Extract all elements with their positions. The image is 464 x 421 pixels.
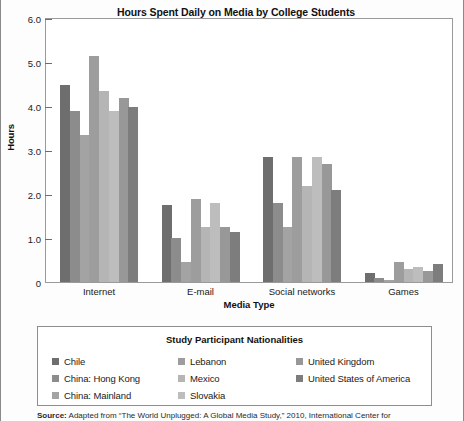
bar	[220, 227, 230, 282]
chart-title: Hours Spent Daily on Media by College St…	[61, 6, 411, 18]
x-axis-tick-label: Internet	[83, 286, 115, 297]
chart-figure: Hours Spent Daily on Media by College St…	[0, 0, 464, 421]
legend-item-label: Lebanon	[190, 356, 226, 367]
x-axis-title: Media Type	[46, 299, 452, 310]
source-text: Adapted from “The World Unplugged: A Glo…	[67, 411, 391, 420]
legend-items: ChileChina: Hong KongChina: MainlandLeba…	[38, 353, 431, 405]
bar	[312, 157, 322, 282]
legend-swatch-icon	[178, 392, 185, 399]
legend-item-label: China: Hong Kong	[64, 373, 140, 384]
y-axis-tick-label: 5.0	[7, 58, 41, 69]
legend-swatch-icon	[178, 358, 185, 365]
legend-item-label: Chile	[64, 356, 85, 367]
bar	[365, 273, 375, 282]
bar	[70, 111, 80, 282]
bar	[191, 199, 201, 282]
legend-item: United Kingdom	[296, 353, 374, 369]
legend-item: China: Hong Kong	[52, 370, 140, 386]
bar	[181, 262, 191, 282]
y-axis-tick-label: 4.0	[7, 102, 41, 113]
legend-item-label: Mexico	[190, 373, 220, 384]
bar-group	[60, 19, 138, 282]
bar	[80, 135, 90, 282]
y-axis-tick-label: 6.0	[7, 14, 41, 25]
legend-item: Chile	[52, 353, 85, 369]
legend-item: United States of America	[296, 370, 410, 386]
bar-group	[162, 19, 240, 282]
bar	[413, 267, 423, 282]
legend-item-label: United States of America	[308, 373, 410, 384]
bar	[230, 232, 240, 282]
legend-swatch-icon	[178, 375, 185, 382]
bar-group	[365, 19, 443, 282]
source-note: Source: Adapted from “The World Unplugge…	[37, 411, 457, 421]
bar	[60, 85, 70, 282]
bar	[263, 157, 273, 282]
y-axis-title: Hours	[5, 113, 16, 163]
legend-item: China: Mainland	[52, 387, 131, 403]
bar	[331, 190, 341, 282]
legend-item: Slovakia	[178, 387, 225, 403]
bar	[273, 203, 283, 282]
legend-swatch-icon	[296, 358, 303, 365]
source-label: Source:	[37, 411, 67, 420]
bar	[210, 203, 220, 282]
legend-item-label: United Kingdom	[308, 356, 374, 367]
bar-group	[263, 19, 341, 282]
bar	[384, 280, 394, 282]
bar	[109, 111, 119, 282]
bar	[404, 269, 414, 282]
legend-item-label: China: Mainland	[64, 390, 131, 401]
bar	[423, 271, 433, 282]
y-axis-tick-label: 1.0	[7, 234, 41, 245]
bar	[292, 157, 302, 282]
legend-item: Mexico	[178, 370, 220, 386]
x-axis-tick-label: Games	[388, 286, 419, 297]
bar	[162, 205, 172, 282]
bar	[374, 278, 384, 282]
bar	[302, 186, 312, 282]
bar	[89, 56, 99, 282]
bar	[171, 238, 181, 282]
x-axis-tick-label: E-mail	[187, 286, 214, 297]
bar	[128, 107, 138, 282]
legend-swatch-icon	[52, 375, 59, 382]
legend-item: Lebanon	[178, 353, 226, 369]
bar	[99, 91, 109, 282]
x-axis-tick-label: Social networks	[269, 286, 336, 297]
legend-swatch-icon	[52, 392, 59, 399]
bar	[322, 164, 332, 282]
y-axis-tick-label: 2.0	[7, 190, 41, 201]
legend-swatch-icon	[52, 358, 59, 365]
bar	[119, 98, 129, 282]
legend-swatch-icon	[296, 375, 303, 382]
bar	[283, 227, 293, 282]
legend: Study Participant Nationalities ChileChi…	[37, 326, 432, 406]
bar	[433, 264, 443, 282]
y-axis-tick-label: 0	[7, 278, 41, 289]
bar	[394, 262, 404, 282]
bars-layer	[46, 19, 452, 282]
legend-item-label: Slovakia	[190, 390, 225, 401]
bar	[201, 227, 211, 282]
legend-title: Study Participant Nationalities	[38, 334, 431, 345]
